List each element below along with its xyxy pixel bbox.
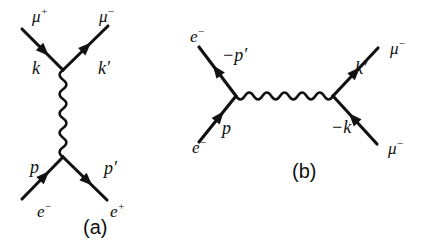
leg-electron-in-momentum-label: p [28,157,39,177]
leg-muon-upper-out-particle-label: μ− [389,37,406,58]
leg-muon-lower-in-momentum-label: −k [331,117,352,137]
leg-electron-lower-in-particle-label: e− [192,136,207,157]
photon-propagator-horizontal [236,93,333,100]
feynman-diagram-canvas: μ+kμ−k′e−pe+p′(a) e−−p′e−pμ−k′μ−−k(b) [0,0,426,250]
leg-electron-lower-in-momentum-label: p [220,118,231,138]
panel-a-caption: (a) [83,216,107,238]
photon-propagator-vertical [60,70,67,157]
feynman-figure: μ+kμ−k′e−pe+p′(a) e−−p′e−pμ−k′μ−−k(b) [0,0,426,250]
leg-mu-plus-in-momentum-label: k [32,58,41,78]
panel-b-diagram: e−−p′e−pμ−k′μ−−k(b) [190,25,406,183]
leg-electron-in-particle-label: e− [37,200,52,221]
panel-a-diagram: μ+kμ−k′e−pe+p′(a) [22,5,125,239]
leg-mu-plus-in-particle-label: μ+ [31,5,48,26]
leg-mu-minus-out-particle-label: μ− [98,5,115,26]
panel-b-caption: (b) [292,160,316,182]
leg-electron-upper-out-momentum-label: −p′ [222,45,248,65]
leg-positron-out-momentum-label: p′ [102,158,118,178]
leg-electron-upper-out-particle-label: e− [190,25,205,46]
leg-mu-minus-out-momentum-label: k′ [98,58,111,78]
leg-positron-out-particle-label: e+ [110,200,125,221]
leg-muon-lower-in-particle-label: μ− [387,137,404,158]
leg-muon-upper-out-momentum-label: k′ [355,58,368,78]
